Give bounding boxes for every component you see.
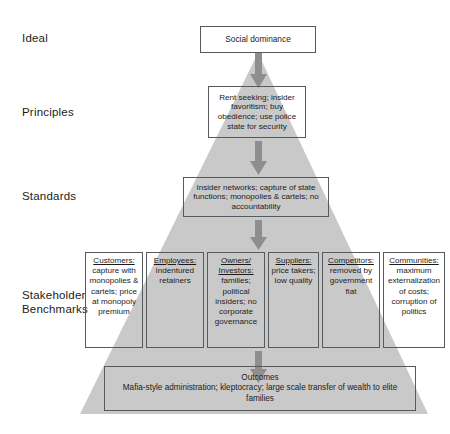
stakeholder-body-competitors: removed by government fiat [325, 266, 377, 297]
stakeholder-title-competitors: Competitors: [325, 256, 377, 266]
row-label-principles: Principles [22, 105, 74, 119]
stakeholder-box-customers: Customers: capture with monopolies & car… [85, 252, 143, 348]
row-label-stakeholder-benchmarks: Stakeholder Benchmarks [22, 288, 88, 316]
stakeholder-title-owners-investors: Owners/ Investors: [210, 256, 262, 276]
stakeholder-body-communities: maximum externalization of costs; corrup… [386, 266, 442, 317]
arrow-principles-to-standards [250, 141, 267, 175]
box-outcomes: Outcomes Mafia-style administration; kle… [104, 366, 416, 411]
row-label-standards: Standards [22, 189, 76, 203]
stakeholder-box-suppliers: Suppliers: price takers; low quality [268, 252, 319, 348]
stakeholder-box-competitors: Competitors: removed by government fiat [322, 252, 380, 348]
stakeholder-title-suppliers: Suppliers: [271, 256, 316, 266]
stakeholder-title-employees: Employees: [149, 256, 201, 266]
stakeholder-body-employees: indentured retainers [149, 266, 201, 286]
stakeholder-box-owners-investors: Owners/ Investors: families; political i… [207, 252, 265, 348]
box-ideal: Social dominance [200, 26, 316, 53]
stakeholder-box-employees: Employees: indentured retainers [146, 252, 204, 348]
stakeholder-title-customers: Customers: [88, 256, 140, 266]
stakeholder-body-owners-investors: families; political insiders; no corpora… [210, 276, 262, 327]
box-standards: Insider networks; capture of state funct… [183, 177, 329, 217]
box-principles: Rent seeking; insider favoritism; buy ob… [208, 86, 306, 138]
diagram-canvas: Ideal Principles Standards Stakeholder B… [0, 0, 450, 434]
stakeholder-body-suppliers: price takers; low quality [271, 266, 316, 286]
row-label-ideal: Ideal [22, 31, 48, 45]
box-outcomes-heading: Outcomes [108, 373, 412, 383]
stakeholder-body-customers: capture with monopolies & cartels; price… [88, 266, 140, 317]
stakeholder-box-communities: Communities: maximum externalization of … [383, 252, 445, 348]
arrow-ideal-to-principles [250, 52, 267, 88]
box-principles-text: Rent seeking; insider favoritism; buy ob… [212, 93, 302, 131]
box-ideal-text: Social dominance [204, 35, 312, 45]
box-standards-text: Insider networks; capture of state funct… [187, 183, 325, 212]
arrow-standards-to-stakeholder [250, 220, 267, 250]
stakeholder-title-communities: Communities: [386, 256, 442, 266]
box-outcomes-text: Mafia-style administration; kleptocracy;… [108, 383, 412, 404]
